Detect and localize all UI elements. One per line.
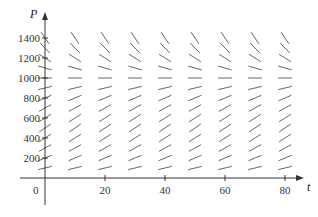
slope-segment — [251, 32, 259, 44]
slope-segment — [279, 54, 291, 62]
slope-segment — [129, 155, 142, 161]
slope-segment — [220, 43, 230, 53]
slope-segment — [130, 43, 140, 53]
y-axis-label: P — [29, 7, 38, 21]
y-tick-label: 200 — [24, 152, 41, 164]
slope-segment — [281, 32, 289, 44]
slope-segment — [99, 105, 111, 112]
slope-segment — [159, 145, 171, 152]
slope-segment — [219, 54, 231, 62]
slope-segment — [218, 66, 231, 70]
slope-segment — [98, 66, 111, 70]
slope-segment — [249, 124, 261, 132]
slope-segments — [38, 32, 292, 169]
slope-segment — [189, 114, 201, 122]
slope-segment — [129, 54, 141, 62]
slope-segment — [188, 66, 201, 70]
slope-segment — [69, 114, 81, 122]
slope-segment — [69, 145, 81, 152]
slope-segment — [161, 32, 169, 44]
slope-segment — [98, 166, 112, 169]
slope-segment — [250, 43, 260, 53]
slope-segment — [159, 134, 171, 142]
origin-label: 0 — [33, 184, 39, 196]
slope-segment — [189, 124, 201, 132]
slope-segment — [190, 43, 200, 53]
y-tick-label: 1000 — [18, 72, 41, 84]
slope-segment — [279, 105, 291, 112]
slope-segment — [69, 105, 81, 112]
slope-segment — [249, 105, 261, 112]
slope-segment — [158, 66, 171, 70]
slope-segment — [191, 32, 199, 44]
slope-segment — [99, 95, 112, 101]
slope-segment — [278, 166, 292, 169]
y-tick-label: 1400 — [18, 32, 41, 44]
y-axis-arrow-icon — [42, 12, 48, 20]
slope-segment — [69, 155, 82, 161]
y-tick-label: 1200 — [18, 52, 41, 64]
slope-segment — [128, 166, 142, 169]
slope-segment — [219, 134, 231, 142]
slope-segment — [100, 43, 110, 53]
x-tick-label: 20 — [100, 184, 112, 196]
slope-segment — [98, 86, 112, 89]
slope-segment — [248, 86, 262, 89]
slope-segment — [129, 105, 141, 112]
slope-segment — [128, 66, 141, 70]
slope-segment — [158, 166, 172, 169]
slope-segment — [159, 95, 172, 101]
slope-segment — [218, 166, 232, 169]
slope-segment — [249, 95, 262, 101]
slope-segment — [189, 95, 202, 101]
slope-segment — [188, 166, 202, 169]
slope-segment — [99, 155, 112, 161]
slope-segment — [69, 134, 81, 142]
slope-segment — [68, 166, 82, 169]
slope-segment — [99, 145, 111, 152]
slope-segment — [189, 145, 201, 152]
slope-segment — [219, 95, 232, 101]
slope-segment — [219, 124, 231, 132]
slope-segment — [279, 124, 291, 132]
slope-segment — [221, 32, 229, 44]
slope-segment — [279, 145, 291, 152]
x-tick-label: 40 — [160, 184, 172, 196]
slope-segment — [69, 54, 81, 62]
slope-segment — [68, 86, 82, 89]
slope-segment — [69, 124, 81, 132]
slope-segment — [69, 95, 82, 101]
slope-segment — [279, 114, 291, 122]
slope-segment — [219, 155, 232, 161]
slope-segment — [159, 114, 171, 122]
slope-segment — [129, 124, 141, 132]
slope-segment — [129, 145, 141, 152]
slope-segment — [101, 32, 109, 44]
slope-segment — [219, 105, 231, 112]
slope-segment — [248, 166, 262, 169]
slope-segment — [158, 86, 172, 89]
slope-segment — [249, 54, 261, 62]
slope-segment — [279, 134, 291, 142]
slope-segment — [249, 134, 261, 142]
slope-segment — [128, 86, 142, 89]
y-tick-label: 600 — [24, 112, 41, 124]
slope-segment — [278, 86, 292, 89]
slope-segment — [278, 66, 291, 70]
slope-segment — [129, 134, 141, 142]
slope-segment — [99, 54, 111, 62]
slope-segment — [279, 95, 292, 101]
slope-segment — [189, 155, 202, 161]
slope-segment — [159, 155, 172, 161]
x-tick-label: 60 — [220, 184, 232, 196]
slope-segment — [129, 114, 141, 122]
y-tick-label: 400 — [24, 132, 41, 144]
y-tick-label: 800 — [24, 92, 41, 104]
slope-segment — [219, 114, 231, 122]
slope-segment — [279, 155, 292, 161]
slope-segment — [189, 105, 201, 112]
slope-segment — [160, 43, 170, 53]
slope-segment — [189, 134, 201, 142]
slope-segment — [188, 86, 202, 89]
slope-segment — [99, 124, 111, 132]
